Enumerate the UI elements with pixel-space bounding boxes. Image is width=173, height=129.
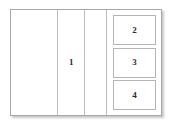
sidebar-box-2[interactable]: 2 — [113, 15, 156, 45]
sidebar-box-4[interactable]: 4 — [113, 80, 156, 110]
panel-main-region-1[interactable]: 1 — [58, 10, 85, 115]
sidebar-box-2-label: 2 — [132, 26, 137, 35]
panel-left-empty[interactable] — [11, 10, 58, 115]
sidebar-box-3-label: 3 — [132, 58, 137, 67]
panel-narrow-empty[interactable] — [85, 10, 107, 115]
panel-main-label: 1 — [69, 58, 74, 67]
sidebar-panel: 2 3 4 — [107, 10, 161, 115]
sidebar-box-4-label: 4 — [132, 91, 137, 100]
sidebar-box-3[interactable]: 3 — [113, 48, 156, 78]
layout-wireframe-container: 1 2 3 4 — [10, 9, 162, 116]
